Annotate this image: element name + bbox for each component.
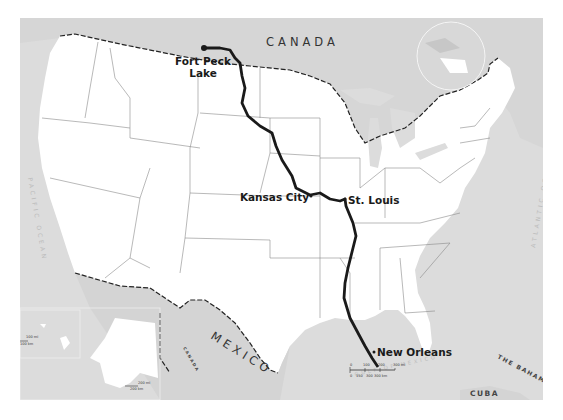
svg-text:0: 0 xyxy=(350,363,352,367)
new-orleans-marker xyxy=(373,351,376,354)
svg-text:200: 200 xyxy=(378,363,385,367)
svg-text:100 mi: 100 mi xyxy=(26,335,38,339)
map-canvas: Fort Peck Lake Kansas City St. Louis New… xyxy=(20,18,543,400)
svg-text:200 km: 200 km xyxy=(130,387,144,391)
svg-text:300 km: 300 km xyxy=(374,374,388,378)
hawaii-islands xyxy=(40,324,70,350)
label-pacific-ocean: PACIFIC OCEAN xyxy=(27,177,49,262)
locator-globe xyxy=(417,22,485,90)
svg-text:100: 100 xyxy=(363,363,370,367)
svg-text:100 km: 100 km xyxy=(20,342,34,346)
label-bahamas: THE BAHAMAS xyxy=(497,353,543,390)
kansas-city-marker xyxy=(310,195,313,198)
label-canada: CANADA xyxy=(266,35,339,49)
fort-peck-marker xyxy=(201,45,207,51)
hawaii-scale: 100 mi 100 km xyxy=(20,335,38,346)
map-frame: Fort Peck Lake Kansas City St. Louis New… xyxy=(20,18,543,400)
label-st-louis: St. Louis xyxy=(348,194,399,206)
svg-text:200 mi: 200 mi xyxy=(138,381,150,385)
label-new-orleans: New Orleans xyxy=(377,346,452,358)
label-fort-peck-lake: Lake xyxy=(189,67,217,79)
st-louis-marker xyxy=(344,198,347,201)
label-cuba: CUBA xyxy=(470,389,499,398)
label-fort-peck: Fort Peck xyxy=(175,55,232,67)
svg-text:300 mi: 300 mi xyxy=(393,363,405,367)
svg-text:0: 0 xyxy=(350,374,352,378)
label-atlantic-ocean: ATLANTIC OCEAN xyxy=(529,154,543,248)
label-kansas-city: Kansas City xyxy=(240,191,309,203)
svg-text:150: 150 xyxy=(356,374,363,378)
svg-text:300: 300 xyxy=(366,374,373,378)
